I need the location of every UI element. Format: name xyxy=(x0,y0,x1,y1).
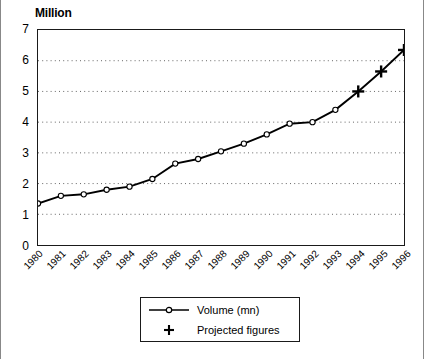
legend-entry-volume: Volume (mn) xyxy=(141,299,299,320)
x-axis-tick-1981: 1981 xyxy=(44,248,68,272)
data-point-1991 xyxy=(287,121,292,126)
chart-legend: Volume (mn) Projected figures xyxy=(140,297,300,342)
y-axis-tick-2: 2 xyxy=(22,177,29,191)
x-axis-tick-1995: 1995 xyxy=(366,248,390,272)
legend-entry-projected: Projected figures xyxy=(141,319,299,340)
y-axis-tick-4: 4 xyxy=(22,115,29,129)
x-axis-tick-1991: 1991 xyxy=(274,248,298,272)
data-point-1984 xyxy=(127,184,132,189)
data-point-1986 xyxy=(173,161,178,166)
x-axis-tick-1985: 1985 xyxy=(136,248,160,272)
legend-label-projected: Projected figures xyxy=(197,324,280,336)
x-axis-tick-1994: 1994 xyxy=(343,248,367,272)
y-axis-tick-1: 1 xyxy=(22,208,29,222)
data-point-1990 xyxy=(264,132,269,137)
x-axis-tick-1986: 1986 xyxy=(159,248,183,272)
data-point-1983 xyxy=(104,187,109,192)
x-axis-tick-1987: 1987 xyxy=(182,248,206,272)
data-series-layer xyxy=(38,30,404,245)
data-point-1987 xyxy=(196,156,201,161)
legend-label-volume: Volume (mn) xyxy=(197,304,259,316)
x-axis-tick-1992: 1992 xyxy=(297,248,321,272)
y-axis-tick-5: 5 xyxy=(22,84,29,98)
data-point-1981 xyxy=(58,193,63,198)
data-point-1989 xyxy=(241,141,246,146)
x-axis-tick-1993: 1993 xyxy=(320,248,344,272)
x-axis-tick-1990: 1990 xyxy=(251,248,275,272)
x-axis-tick-1984: 1984 xyxy=(113,248,137,272)
plus-marker-icon xyxy=(141,323,197,337)
y-axis-tick-3: 3 xyxy=(22,146,29,160)
y-axis-tick-labels: 01234567 xyxy=(1,29,33,246)
data-point-1993 xyxy=(333,107,338,112)
chart-figure: Million 01234567 19801981198219831984198… xyxy=(0,0,424,359)
plot-area xyxy=(37,29,405,246)
series-line xyxy=(38,50,404,204)
data-point-1985 xyxy=(150,176,155,181)
y-axis-tick-7: 7 xyxy=(22,22,29,36)
x-axis-tick-labels: 1980198119821983198419851986198719881989… xyxy=(37,246,405,292)
y-axis-tick-0: 0 xyxy=(22,239,29,253)
line-marker-icon xyxy=(141,304,197,316)
x-axis-tick-1989: 1989 xyxy=(228,248,252,272)
data-point-1992 xyxy=(310,120,315,125)
data-point-1988 xyxy=(218,149,223,154)
y-axis-tick-6: 6 xyxy=(22,53,29,67)
x-axis-tick-1982: 1982 xyxy=(67,248,91,272)
data-point-1982 xyxy=(81,192,86,197)
data-point-1980 xyxy=(38,201,41,206)
x-axis-tick-1988: 1988 xyxy=(205,248,229,272)
x-axis-tick-1983: 1983 xyxy=(90,248,114,272)
x-axis-tick-1996: 1996 xyxy=(389,248,413,272)
y-axis-title: Million xyxy=(35,6,72,20)
